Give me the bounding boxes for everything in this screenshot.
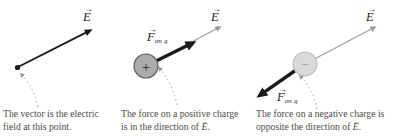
vector-arrow-icon: → [353, 116, 360, 129]
field-vector-label: →E [83, 8, 91, 24]
field-vector-label: →E [211, 8, 219, 24]
caption-leader-dotted-arrow [302, 78, 317, 109]
positive-charge-sign: + [142, 60, 150, 75]
caption-line: The vector is the electric [3, 108, 125, 121]
field-vector-label: →E [366, 8, 374, 24]
caption-line: field at this point. [3, 121, 125, 134]
vector-arrow-icon: → [212, 5, 220, 14]
force-label-subscript: on q [285, 97, 298, 105]
vector-arrow-icon: → [84, 5, 92, 14]
electric-field-arrow [19, 33, 86, 67]
vector-arrow-icon: → [367, 5, 375, 14]
negative-charge-sign: − [301, 57, 308, 72]
vector-arrow-icon: → [201, 116, 208, 129]
caption-field-at-point: The vector is the electric field at this… [3, 108, 125, 133]
caption-line: The force on a positive charge [121, 108, 255, 121]
force-vector-label: →Fon q [277, 88, 298, 105]
caption-leader-dotted-arrow [161, 70, 177, 105]
caption-negative-charge: The force on a negative charge is opposi… [256, 108, 394, 133]
caption-line: is in the direction of →E. [121, 121, 255, 134]
figure-electric-field-force: + − →E →E →E →Fon q →Fon q The vector is… [0, 0, 395, 138]
force-label-subscript: on q [155, 37, 168, 45]
vector-arrow-icon: → [278, 85, 286, 94]
caption-positive-charge: The force on a positive charge is in the… [121, 108, 255, 133]
caption-line: opposite the direction of →E. [256, 121, 394, 134]
caption-leader-dotted-arrow [23, 76, 38, 107]
force-vector-label: →Fon q [147, 28, 168, 45]
vector-arrow-icon: → [148, 25, 156, 34]
caption-line: The force on a negative charge is [256, 108, 394, 121]
